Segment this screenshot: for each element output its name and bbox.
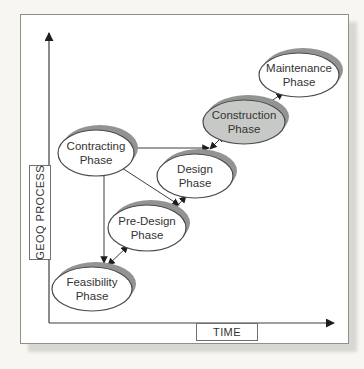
node-predesign-phase bbox=[108, 205, 186, 251]
node-construction-phase bbox=[203, 100, 285, 144]
y-axis-label: GEOQ PROCESS bbox=[34, 165, 46, 260]
node-design-phase bbox=[157, 154, 233, 198]
diagram-canvas bbox=[21, 15, 348, 343]
edge-feasibility-predesign bbox=[108, 246, 128, 265]
diagram-frame: Feasibility Phase Pre-Design Phase Contr… bbox=[20, 14, 349, 344]
node-contracting-phase bbox=[58, 130, 134, 176]
x-axis-label: TIME bbox=[213, 326, 241, 338]
y-axis-label-box: GEOQ PROCESS bbox=[29, 165, 51, 260]
node-maintenance-phase bbox=[259, 53, 339, 97]
x-axis-label-box: TIME bbox=[196, 323, 258, 341]
page-background: Feasibility Phase Pre-Design Phase Contr… bbox=[0, 0, 364, 369]
node-feasibility-phase bbox=[52, 267, 132, 311]
